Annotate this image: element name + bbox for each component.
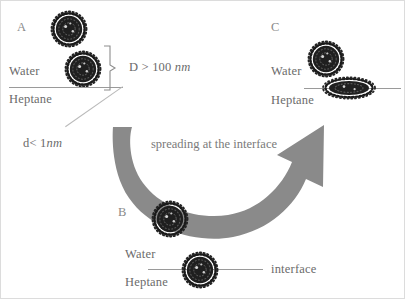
panel-a-water-label: Water: [9, 65, 40, 78]
panel-a-heptane-label: Heptane: [9, 93, 52, 106]
panel-a-thickness-label-text: d< 1: [23, 136, 46, 150]
panel-c-heptane-label: Heptane: [271, 94, 314, 107]
panel-a-thickness-label-unit: nm: [46, 136, 62, 150]
panel-a-size-bracket-icon: [101, 45, 121, 91]
panel-b-heptane-label: Heptane: [125, 276, 168, 289]
panel-a-thickness-label: d< 1nm: [23, 137, 62, 150]
panel-a-size-label-text: D > 100: [129, 60, 175, 74]
panel-b-interface-label: interface: [271, 263, 317, 276]
spreading-arrow-label: spreading at the interface: [151, 137, 277, 152]
figure-canvas: A Water Heptane D > 100 nm d< 1nm spread…: [0, 0, 405, 299]
panel-c-spread-particle: [319, 66, 379, 110]
panel-c-letter: C: [271, 21, 279, 34]
panel-a-interface-particle: [61, 47, 105, 91]
panel-a-leader-line: [65, 86, 123, 127]
panel-b-letter: B: [118, 206, 126, 219]
panel-c-water-label: Water: [271, 65, 302, 78]
panel-a-free-particle: [47, 7, 91, 51]
panel-a-letter: A: [17, 21, 26, 34]
panel-a-size-label-unit: nm: [175, 60, 191, 74]
panel-b-free-particle: [148, 197, 192, 241]
panel-b-adsorbed-particle: [178, 248, 222, 292]
panel-b-water-label: Water: [125, 248, 156, 261]
panel-a-size-label: D > 100 nm: [129, 61, 191, 74]
